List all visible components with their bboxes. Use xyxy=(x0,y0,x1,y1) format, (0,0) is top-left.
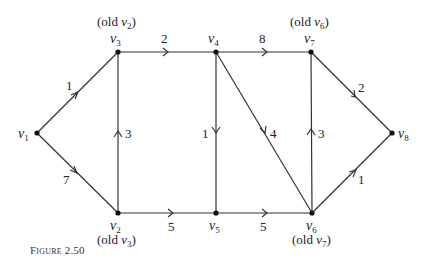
weight-v6-v8: 1 xyxy=(358,172,365,187)
weight-v4-v7: 8 xyxy=(259,31,266,46)
old-label-v7: (old v6) xyxy=(290,14,329,31)
weight-v7-v8: 2 xyxy=(358,80,365,95)
label-v5: v5 xyxy=(209,218,220,235)
weight-v5-v6: 5 xyxy=(260,219,267,234)
label-v3: v3 xyxy=(110,31,121,48)
weight-v2-v5: 5 xyxy=(168,219,175,234)
weight-v6-v7: 3 xyxy=(318,126,325,141)
weight-v4-v6: 4 xyxy=(270,126,277,141)
weight-v3-v4: 2 xyxy=(161,31,168,46)
label-v1: v1 xyxy=(18,126,29,143)
node-v7 xyxy=(308,49,313,54)
edges xyxy=(37,48,392,217)
edge-v6-v8 xyxy=(312,133,392,213)
old-label-v6: (old v7) xyxy=(292,232,331,249)
arrow-icon xyxy=(349,170,356,177)
weight-v1-v2: 7 xyxy=(63,172,70,187)
label-v4: v4 xyxy=(208,31,219,48)
label-v7: v7 xyxy=(304,31,315,48)
figure-caption: Figure 2.50 xyxy=(30,244,85,256)
label-v8: v8 xyxy=(398,126,409,143)
edge-v7-v8 xyxy=(311,52,392,133)
weight-v1-v3: 1 xyxy=(66,78,73,93)
weight-v4-v5: 1 xyxy=(202,126,209,141)
node-v2 xyxy=(115,210,120,215)
node-v1 xyxy=(34,130,39,135)
node-v4 xyxy=(213,49,218,54)
node-v6 xyxy=(309,210,314,215)
node-v8 xyxy=(389,130,394,135)
old-label-v2: (old v3) xyxy=(97,232,136,249)
directed-graph: 1 7 2 3 1 4 8 5 5 3 2 1 v1 v3 v4 v7 v8 v… xyxy=(0,0,434,277)
old-label-v3: (old v2) xyxy=(97,14,136,31)
weight-v2-v3: 3 xyxy=(125,126,132,141)
edge-v6-v7 xyxy=(311,52,312,213)
nodes xyxy=(34,49,394,215)
vertex-labels: v1 v3 v4 v7 v8 v2 v5 v6 xyxy=(18,31,409,235)
node-v3 xyxy=(115,49,120,54)
node-v5 xyxy=(213,210,218,215)
